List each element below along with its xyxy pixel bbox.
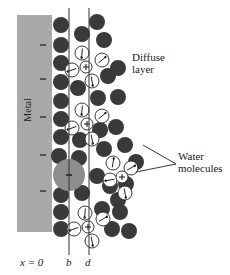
water-dipole	[65, 63, 79, 77]
diffuse-layer-label-line2: layer	[132, 63, 154, 75]
solvent-molecule	[117, 137, 133, 153]
solvent-molecule	[89, 14, 105, 30]
leader-line	[143, 145, 176, 164]
solvent-molecule	[53, 17, 69, 33]
water-dipole	[75, 103, 89, 117]
solvent-molecule	[89, 168, 105, 184]
solvent-molecule	[121, 223, 137, 239]
water-dipole	[65, 121, 79, 135]
solvated-cation	[81, 118, 93, 130]
solvent-molecule	[110, 60, 126, 76]
water-dipole	[118, 186, 132, 200]
water-dipole	[96, 212, 110, 226]
diffuse-layer-label-line1: Diffuse	[132, 51, 165, 63]
water-dipole	[85, 74, 99, 88]
solvent-molecule	[70, 80, 86, 96]
solvent-molecule	[96, 32, 112, 48]
double-layer-diagram: Metal Diffuse layer Water molecules x = …	[0, 0, 230, 275]
water-dipole	[78, 206, 92, 220]
solvent-molecule	[110, 89, 126, 105]
solvent-molecule	[90, 90, 106, 106]
solvent-molecule	[74, 26, 90, 42]
solvent-molecule	[53, 37, 69, 53]
water-dipole	[85, 132, 99, 146]
metal-electrode: Metal	[17, 15, 52, 232]
water-dipole	[95, 53, 109, 67]
plane-b-label: b	[66, 256, 72, 268]
solvent-molecule	[112, 204, 128, 220]
water-dipole	[95, 109, 109, 123]
water-molecules-label-line2: molecules	[178, 162, 223, 174]
solvent-molecule	[53, 74, 69, 90]
solvent-molecule	[53, 204, 69, 220]
water-dipole	[85, 234, 99, 248]
solvent-molecule	[108, 119, 124, 135]
water-molecules-label-line1: Water	[178, 150, 204, 162]
water-dipole	[75, 46, 89, 60]
plane-d-label: d	[85, 256, 91, 268]
metal-label: Metal	[22, 98, 33, 122]
solvated-cation	[82, 221, 94, 233]
metal-slab	[17, 15, 52, 232]
solvated-cation	[116, 171, 128, 183]
solvent-molecule	[96, 141, 112, 157]
solvated-cation	[80, 61, 92, 73]
water-dipole	[106, 156, 120, 170]
x-origin-label: x = 0	[19, 256, 44, 268]
solvent-molecule	[53, 93, 69, 109]
water-dipole	[103, 173, 117, 187]
